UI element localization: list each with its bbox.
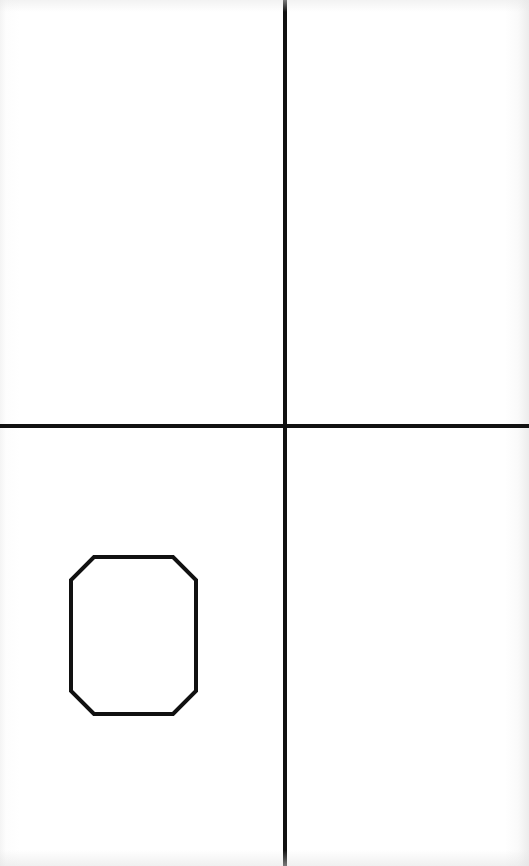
quadrant-diagram (0, 0, 529, 866)
diagram-canvas (0, 0, 529, 866)
octagon-shape (71, 557, 196, 714)
